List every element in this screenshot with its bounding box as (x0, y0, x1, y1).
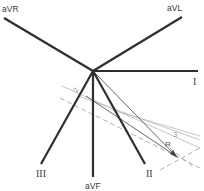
hexaxial-diagram: aVR aVL I II III aVF 2 3 R (0, 0, 204, 191)
label-ii: II (146, 168, 153, 179)
label-avr: aVR (2, 4, 19, 14)
label-i: I (193, 76, 196, 87)
annotation-2: 2 (71, 86, 81, 94)
annotation-r: R (165, 140, 171, 149)
label-avf: aVF (85, 181, 101, 191)
lead-avl-axis (93, 17, 182, 71)
label-avl: aVL (167, 3, 182, 13)
construction-line-3b (112, 110, 200, 136)
lead-iii-axis (41, 71, 93, 164)
label-iii: III (36, 168, 46, 179)
resultant-vector-shaft (86, 96, 176, 156)
dashed-perpendicular-line (160, 148, 200, 170)
annotation-3: 3 (173, 130, 177, 139)
lead-avr-axis (4, 18, 93, 71)
